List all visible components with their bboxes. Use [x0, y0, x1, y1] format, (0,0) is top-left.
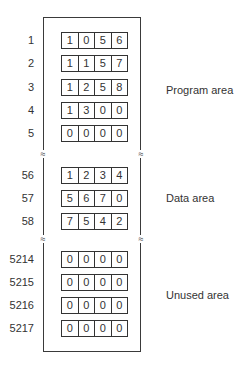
digit-cell: 0: [112, 191, 128, 206]
digit-cell: 0: [62, 298, 79, 313]
unused-area-label: Unused area: [166, 288, 229, 302]
memory-word: 7 5 4 2: [61, 213, 128, 230]
digit-cell: 0: [95, 103, 112, 118]
digit-cell: 2: [79, 168, 96, 183]
digit-cell: 0: [79, 252, 96, 267]
address-label: 5: [0, 125, 34, 142]
break-mark-left-2: ≈: [39, 235, 47, 243]
digit-cell: 0: [95, 126, 112, 141]
break-mark-left-1: ≈: [39, 150, 47, 158]
digit-cell: 0: [62, 321, 79, 336]
digit-cell: 5: [95, 33, 112, 48]
digit-cell: 0: [95, 252, 112, 267]
address-label: 3: [0, 79, 34, 96]
memory-word: 1 0 5 6: [61, 32, 128, 49]
break-mark-right-2: ≈: [137, 235, 145, 243]
digit-cell: 0: [112, 126, 128, 141]
digit-cell: 1: [62, 33, 79, 48]
digit-cell: 4: [112, 168, 128, 183]
program-area-label: Program area: [166, 83, 233, 97]
address-label: 5217: [0, 320, 34, 337]
digit-cell: 0: [79, 275, 96, 290]
digit-cell: 5: [95, 56, 112, 71]
digit-cell: 0: [62, 126, 79, 141]
digit-cell: 6: [112, 33, 128, 48]
digit-cell: 7: [112, 56, 128, 71]
memory-word: 0 0 0 0: [61, 251, 128, 268]
address-label: 5216: [0, 297, 34, 314]
digit-cell: 7: [62, 214, 79, 229]
memory-word: 1 2 3 4: [61, 167, 128, 184]
digit-cell: 3: [79, 103, 96, 118]
address-label: 1: [0, 32, 34, 49]
digit-cell: 6: [79, 191, 96, 206]
digit-cell: 0: [112, 298, 128, 313]
data-area-label: Data area: [166, 191, 214, 205]
memory-word: 0 0 0 0: [61, 274, 128, 291]
break-mark-right-1: ≈: [137, 150, 145, 158]
memory-word: 1 3 0 0: [61, 102, 128, 119]
memory-word: 0 0 0 0: [61, 320, 128, 337]
address-label: 56: [0, 167, 34, 184]
digit-cell: 7: [95, 191, 112, 206]
digit-cell: 5: [95, 80, 112, 95]
digit-cell: 4: [95, 214, 112, 229]
digit-cell: 0: [79, 126, 96, 141]
memory-word: 0 0 0 0: [61, 125, 128, 142]
digit-cell: 1: [62, 103, 79, 118]
digit-cell: 1: [79, 56, 96, 71]
digit-cell: 5: [62, 191, 79, 206]
memory-word: 0 0 0 0: [61, 297, 128, 314]
address-label: 57: [0, 190, 34, 207]
digit-cell: 1: [62, 56, 79, 71]
memory-word: 1 2 5 8: [61, 79, 128, 96]
digit-cell: 0: [79, 321, 96, 336]
digit-cell: 0: [95, 275, 112, 290]
digit-cell: 0: [79, 298, 96, 313]
digit-cell: 1: [62, 80, 79, 95]
digit-cell: 1: [62, 168, 79, 183]
digit-cell: 0: [112, 252, 128, 267]
digit-cell: 8: [112, 80, 128, 95]
address-label: 5215: [0, 274, 34, 291]
memory-word: 1 1 5 7: [61, 55, 128, 72]
digit-cell: 0: [112, 275, 128, 290]
digit-cell: 3: [95, 168, 112, 183]
address-label: 58: [0, 213, 34, 230]
digit-cell: 2: [112, 214, 128, 229]
address-label: 4: [0, 102, 34, 119]
address-label: 2: [0, 55, 34, 72]
digit-cell: 0: [112, 321, 128, 336]
digit-cell: 5: [79, 214, 96, 229]
digit-cell: 0: [95, 298, 112, 313]
digit-cell: 0: [112, 103, 128, 118]
memory-word: 5 6 7 0: [61, 190, 128, 207]
digit-cell: 0: [79, 33, 96, 48]
digit-cell: 0: [95, 321, 112, 336]
digit-cell: 0: [62, 252, 79, 267]
digit-cell: 0: [62, 275, 79, 290]
digit-cell: 2: [79, 80, 96, 95]
address-label: 5214: [0, 251, 34, 268]
